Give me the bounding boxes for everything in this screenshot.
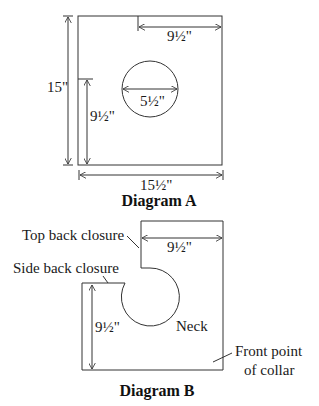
diagram-a-title: Diagram A — [121, 192, 197, 210]
diagram-b-title: Diagram B — [119, 382, 194, 400]
pattern-diagrams: 15" 9½" 9½" 5½" 15½" Diagram A 9½" 9½" T… — [0, 0, 319, 406]
front-point-label-1: Front point — [235, 343, 303, 359]
top-back-closure-label: Top back closure — [22, 227, 125, 243]
collar-shape — [82, 221, 223, 370]
top-offset-label: 9½" — [167, 28, 192, 44]
diagram-a: 15" 9½" 9½" 5½" 15½" Diagram A — [47, 16, 223, 210]
diagram-b: 9½" 9½" Top back closure Side back closu… — [13, 221, 303, 400]
neck-label: Neck — [176, 318, 208, 334]
side-height-label: 9½" — [95, 319, 120, 335]
side-back-closure-label: Side back closure — [13, 260, 119, 276]
top-width-label: 9½" — [167, 239, 192, 255]
front-point-label-2: of collar — [244, 362, 294, 378]
circle-diameter-label: 5½" — [140, 93, 165, 109]
width-label: 15½" — [140, 177, 172, 193]
height-label: 15" — [47, 79, 68, 95]
side-offset-label: 9½" — [90, 108, 115, 124]
diagram-a-square — [78, 16, 222, 165]
